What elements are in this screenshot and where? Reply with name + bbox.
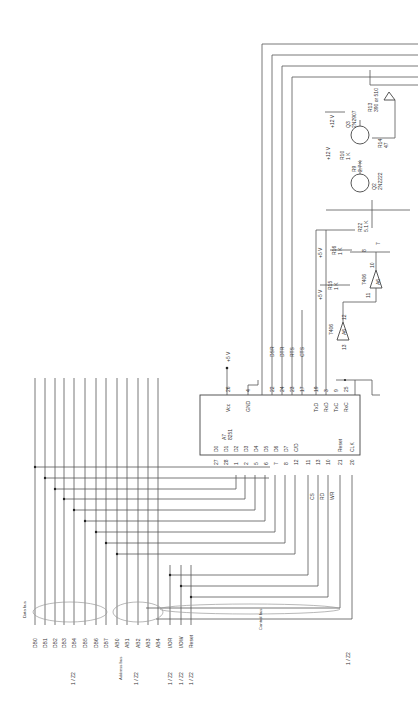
svg-text:21: 21 [337,459,343,465]
vcc-supply [226,367,229,378]
svg-text:DTR: DTR [279,346,285,357]
svg-text:23: 23 [289,386,295,392]
svg-text:5.1 K: 5.1 K [363,220,369,232]
svg-text:D4: D4 [253,445,259,452]
svg-text:+12 V: +12 V [325,146,331,160]
svg-text:6: 6 [263,462,269,465]
svg-text:RD: RD [319,492,325,500]
control-bus-ellipse [160,604,340,614]
svg-text:8: 8 [283,462,289,465]
svg-text:DSR: DSR [269,346,275,357]
modem-lines [262,44,418,395]
svg-text:D5: D5 [263,445,269,452]
svg-text:1 / Z2: 1 / Z2 [345,652,351,665]
svg-text:24: 24 [279,386,285,392]
svg-text:10: 10 [369,262,375,268]
svg-text:I/OW: I/OW [178,636,184,648]
svg-text:DB1: DB1 [42,638,48,648]
svg-text:DB6: DB6 [93,638,99,648]
svg-text:+12 V: +12 V [329,114,335,128]
svg-text:11: 11 [365,293,371,298]
svg-text:1 / Z2: 1 / Z2 [133,672,139,685]
svg-text:+5 V: +5 V [225,351,231,362]
svg-text:1 / Z2: 1 / Z2 [167,672,173,685]
svg-text:390 or 510: 390 or 510 [373,88,379,112]
svg-text:12: 12 [341,314,347,320]
data-taps [34,466,295,555]
svg-text:20: 20 [349,459,355,465]
svg-text:D0: D0 [213,445,219,452]
svg-text:C/D: C/D [293,443,299,452]
svg-text:28: 28 [223,459,229,465]
svg-text:CLK: CLK [349,442,355,452]
svg-text:GND: GND [245,401,251,413]
svg-text:Address bus: Address bus [118,657,123,680]
svg-text:A6: A6 [341,329,347,335]
svg-text:1 K: 1 K [333,282,339,290]
svg-text:AB1: AB1 [124,638,130,648]
svg-text:1 K: 1 K [345,152,351,160]
svg-text:3: 3 [323,389,329,392]
svg-text:2N2222: 2N2222 [377,172,383,190]
svg-text:DB3: DB3 [61,638,67,648]
svg-text:D3: D3 [243,445,249,452]
svg-text:1: 1 [233,462,239,465]
svg-text:AB2: AB2 [135,638,141,648]
svg-text:25: 25 [343,386,349,392]
svg-text:4: 4 [245,389,251,392]
svg-text:2: 2 [243,462,249,465]
schematic-canvas: DB0 DB1 DB2 DB3 DB4 DB5 DB6 DB7 AB0 AB1 … [0,0,418,707]
svg-text:1 / Z2: 1 / Z2 [188,672,194,685]
svg-text:CS: CS [309,492,315,500]
svg-text:D7: D7 [283,445,289,452]
svg-text:9: 9 [333,389,339,392]
svg-text:5: 5 [253,462,259,465]
svg-text:Vcc: Vcc [225,403,231,412]
svg-text:A6: A6 [375,279,381,285]
svg-text:8: 8 [361,249,367,252]
svg-text:17: 17 [299,386,305,392]
svg-text:AB4: AB4 [155,638,161,648]
svg-text:7406: 7406 [361,274,367,285]
svg-text:22: 22 [269,386,275,392]
svg-text:DB0: DB0 [32,638,38,648]
svg-text:+5 V: +5 V [317,247,323,258]
svg-text:DB7: DB7 [103,638,109,648]
svg-text:8251: 8251 [227,429,233,440]
svg-text:+5 V: +5 V [317,289,323,300]
svg-text:11: 11 [305,460,311,465]
svg-text:1 K: 1 K [337,247,343,255]
svg-text:AB3: AB3 [145,638,151,648]
svg-text:19: 19 [313,386,319,392]
svg-text:RxD: RxD [323,402,329,412]
svg-text:7: 7 [273,462,279,465]
svg-text:DB2: DB2 [52,638,58,648]
svg-text:Reset: Reset [337,438,343,452]
svg-text:7: 7 [375,242,381,245]
svg-text:D6: D6 [273,445,279,452]
svg-text:27: 27 [213,459,219,465]
svg-text:D1: D1 [223,445,229,452]
svg-text:26: 26 [225,386,231,392]
svg-text:Reset: Reset [188,634,194,648]
svg-text:2.7 K: 2.7 K [357,160,363,172]
svg-text:DB4: DB4 [71,638,77,648]
svg-text:7406: 7406 [328,324,334,335]
svg-text:1 / Z2: 1 / Z2 [70,672,76,685]
data-bus-lines [35,378,106,625]
svg-text:CTS: CTS [299,346,305,357]
svg-text:AB0: AB0 [114,638,120,648]
svg-text:TxC: TxC [333,402,339,412]
svg-text:DB5: DB5 [82,638,88,648]
svg-text:47: 47 [383,142,389,148]
labels: DB0 DB1 DB2 DB3 DB4 DB5 DB6 DB7 AB0 AB1 … [22,88,389,685]
svg-text:RTS: RTS [289,346,295,357]
svg-text:Control bus: Control bus [258,609,263,630]
svg-text:RxC: RxC [343,402,349,412]
svg-text:13: 13 [315,459,321,465]
svg-text:I/OR: I/OR [167,637,173,648]
svg-text:TxD: TxD [313,402,319,412]
svg-text:12: 12 [293,459,299,465]
control-bus-lines [170,565,191,625]
chip-pin-stubs [227,230,380,395]
